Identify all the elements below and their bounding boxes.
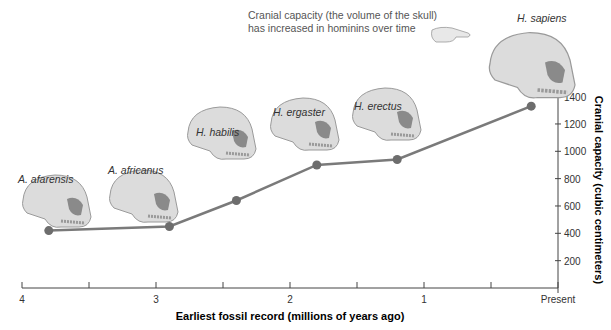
y-tick-label: 400 — [564, 228, 581, 239]
skull-icon — [353, 88, 422, 140]
x-tick-label: 2 — [287, 294, 293, 305]
species-label: H. sapiens — [517, 12, 567, 24]
species-label: H. erectus — [354, 100, 403, 112]
x-axis-label: Earliest fossil record (millions of year… — [176, 310, 405, 322]
x-tick-label: 4 — [19, 294, 25, 305]
skull-icon — [489, 33, 575, 98]
y-tick-label: 800 — [564, 174, 581, 185]
x-tick-label: 3 — [153, 294, 159, 305]
pointing-hand-icon — [432, 27, 471, 42]
species-label: A. afarensis — [17, 173, 74, 185]
data-point — [312, 160, 321, 169]
x-tick-label: Present — [541, 294, 576, 305]
data-point — [44, 226, 53, 235]
skull-icon — [110, 170, 179, 222]
x-tick-label: 1 — [421, 294, 427, 305]
y-tick-label: 1000 — [564, 146, 587, 157]
species-label: H. habilis — [196, 126, 240, 138]
y-tick-label: 600 — [564, 201, 581, 212]
y-tick-label: 1200 — [564, 119, 587, 130]
data-point — [527, 102, 536, 111]
data-point — [165, 222, 174, 231]
cranial-capacity-chart: 4321Present 200400600800100012001400 Ear… — [0, 0, 611, 330]
species-label: H. ergaster — [273, 106, 325, 118]
data-point — [393, 155, 402, 164]
annotation-line-2: has increased in hominins over time — [248, 22, 416, 34]
data-point — [232, 196, 241, 205]
y-axis-label: Cranial capacity (cubic centimeters) — [593, 96, 605, 285]
y-tick-label: 200 — [564, 256, 581, 267]
species-label: A. africanus — [107, 164, 164, 176]
annotation-line-1: Cranial capacity (the volume of the skul… — [248, 9, 437, 21]
